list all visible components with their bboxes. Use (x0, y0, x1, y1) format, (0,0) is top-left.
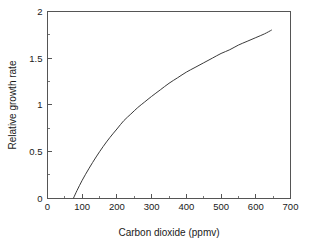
x-tick-label: 100 (74, 201, 90, 212)
x-axis-title: Carbon dioxide (ppmv) (118, 227, 219, 238)
x-tick-label: 300 (144, 201, 160, 212)
x-tick-label: 200 (109, 201, 125, 212)
y-tick-label: 0.5 (29, 146, 42, 157)
x-tick-label: 400 (178, 201, 194, 212)
y-axis-title: Relative growth rate (7, 60, 18, 149)
chart-canvas: 0100200300400500600700 00.511.52 Carbon … (0, 0, 312, 247)
y-tick-label: 2 (37, 6, 42, 17)
y-tick-label: 0 (37, 193, 42, 204)
x-tick-label: 500 (213, 201, 229, 212)
y-tick-label: 1.5 (29, 53, 42, 64)
chart-figure: 0100200300400500600700 00.511.52 Carbon … (0, 0, 312, 247)
x-tick-label: 600 (248, 201, 264, 212)
x-tick-label: 700 (283, 201, 299, 212)
y-tick-label: 1 (37, 99, 42, 110)
x-tick-label: 0 (45, 201, 50, 212)
